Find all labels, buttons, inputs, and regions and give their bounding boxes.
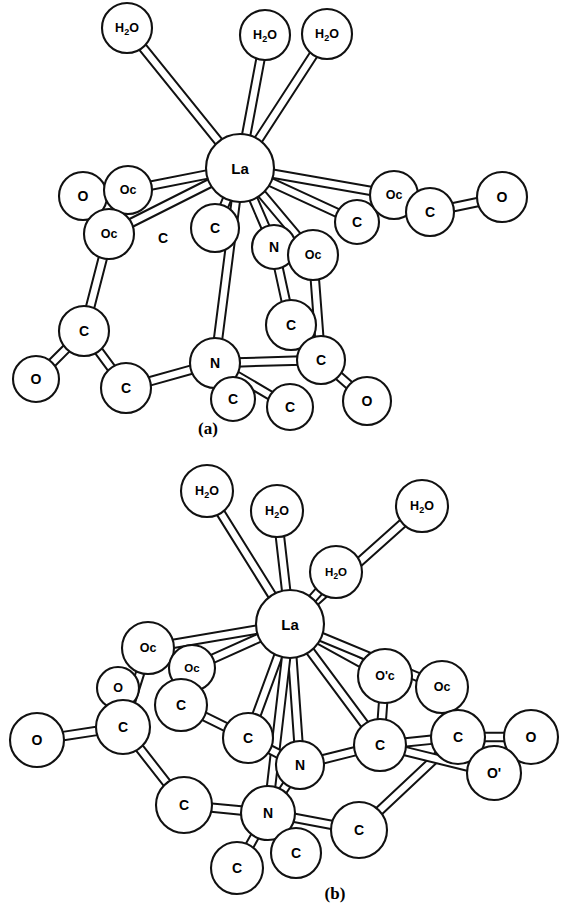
atom-oc: Oc <box>288 230 338 280</box>
atom-circle <box>211 377 255 421</box>
atom-c: C <box>155 679 207 731</box>
atom-oc: Oc <box>84 209 134 259</box>
atom-circle <box>276 741 324 789</box>
atom-c: C <box>223 713 273 763</box>
atom-h2o: H2O <box>102 3 152 53</box>
atom-circle <box>467 746 521 800</box>
molecular-figure-root: H2OH2OH2OLaOOcOcCCNOcCOcCOCOCNCCCCO H2OH… <box>0 0 573 911</box>
atom-oc: Oc <box>122 622 174 674</box>
atom-circle <box>10 713 64 767</box>
atom-c: C <box>158 230 168 246</box>
atom-h2o: H2O <box>310 546 362 598</box>
atom-h2o: H2O <box>240 10 290 60</box>
atom-circle <box>104 166 152 214</box>
atom-oc: Oc <box>104 166 152 214</box>
atom-circle <box>211 842 263 894</box>
atom-c: C <box>156 777 212 833</box>
atom-c: C <box>271 828 321 878</box>
bond-stick <box>136 41 226 150</box>
atom-la: La <box>256 590 324 658</box>
figure-caption-a: (a) <box>198 419 218 438</box>
atom-o: O <box>13 356 59 402</box>
atom-circle <box>191 204 239 252</box>
atom-h2o: H2O <box>396 480 448 532</box>
atom-h2o: H2O <box>181 465 233 517</box>
atom-o: O <box>10 713 64 767</box>
atom-circle <box>343 377 391 425</box>
atom-label: C <box>158 230 168 246</box>
atom-o: O <box>343 377 391 425</box>
atom-circle <box>288 230 338 280</box>
atom-o: O <box>477 172 527 222</box>
atom-circle <box>251 485 303 537</box>
atom-circle <box>416 661 468 713</box>
atom-circle <box>102 3 152 53</box>
atom-c: C <box>354 719 406 771</box>
atom-c: C <box>96 700 150 754</box>
atom-h2o: H2O <box>251 485 303 537</box>
atom-circle <box>181 465 233 517</box>
atom-circle <box>331 802 387 858</box>
molecular-structure-canvas: H2OH2OH2OLaOOcOcCCNOcCOcCOCOCNCCCCO H2OH… <box>0 0 573 911</box>
bond-stick <box>275 531 291 597</box>
atom-circle <box>101 363 151 413</box>
atom-circle <box>297 336 345 384</box>
atom-c: C <box>191 204 239 252</box>
atom-circle <box>59 306 109 356</box>
atom-circle <box>310 546 362 598</box>
atom-circle <box>223 713 273 763</box>
atom-circle <box>302 9 352 59</box>
atom-oc: O'c <box>358 649 412 703</box>
bond-stick <box>235 356 302 366</box>
atom-label-group: C <box>158 230 168 246</box>
atom-oc: Oc <box>416 661 468 713</box>
atom-circle <box>271 828 321 878</box>
atom-c: C <box>297 336 345 384</box>
atom-circle <box>354 719 406 771</box>
atom-c: C <box>101 363 151 413</box>
bond-stick <box>144 364 197 386</box>
atom-c: C <box>211 377 255 421</box>
figure-caption-b: (b) <box>325 884 346 903</box>
atom-circle <box>396 480 448 532</box>
atom-n: N <box>276 741 324 789</box>
atom-circle <box>267 384 313 430</box>
atom-circle <box>13 356 59 402</box>
atom-o: O' <box>467 746 521 800</box>
atom-circle <box>358 649 412 703</box>
atom-c: C <box>331 802 387 858</box>
atom-circle <box>122 622 174 674</box>
atom-circle <box>240 10 290 60</box>
atom-circle <box>156 777 212 833</box>
atom-circle <box>256 590 324 658</box>
atom-c: C <box>211 842 263 894</box>
atom-c: C <box>406 188 454 236</box>
bond-stick <box>85 252 108 312</box>
atom-circle <box>406 188 454 236</box>
atom-c: C <box>59 306 109 356</box>
atom-circle <box>155 679 207 731</box>
atom-circle <box>206 134 274 202</box>
atom-circle <box>96 700 150 754</box>
atom-circle <box>477 172 527 222</box>
atom-c: C <box>267 384 313 430</box>
atom-la: La <box>206 134 274 202</box>
atom-h2o: H2O <box>302 9 352 59</box>
atom-circle <box>84 209 134 259</box>
